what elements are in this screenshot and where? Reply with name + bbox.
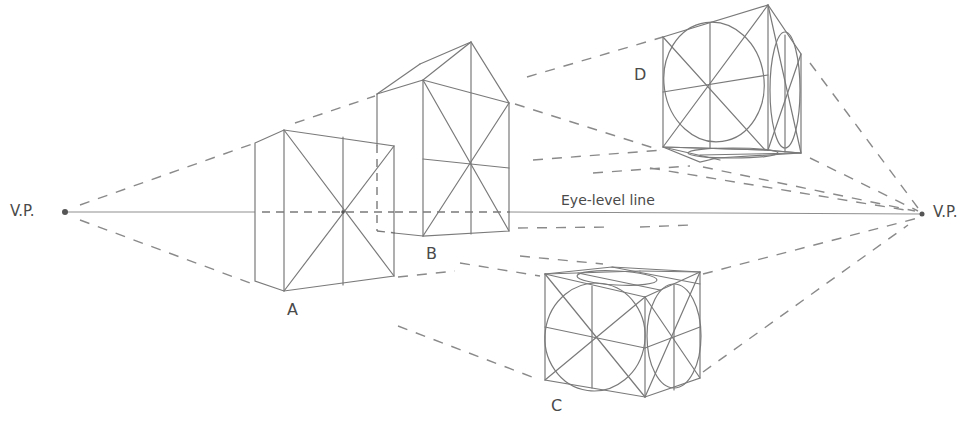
object-d-cube-top (656, 5, 801, 162)
object-b-house (377, 42, 510, 236)
object-c-label: C (551, 398, 562, 414)
eye-level-label: Eye-level line (561, 193, 655, 207)
vanishing-point-right (920, 212, 925, 217)
vp-right-label: V.P. (933, 205, 958, 220)
guide-lines-right (398, 63, 918, 380)
perspective-drawing (0, 0, 978, 432)
object-a-box (255, 130, 394, 291)
object-a-label: A (287, 302, 298, 318)
perspective-diagram: V.P. V.P. Eye-level line A B C D (0, 0, 978, 432)
vp-left-label: V.P. (10, 204, 35, 219)
object-c-cube-bottom (538, 267, 701, 397)
center-point (341, 210, 345, 214)
vanishing-point-left (62, 209, 68, 215)
object-d-label: D (634, 67, 646, 83)
object-b-label: B (426, 246, 437, 262)
